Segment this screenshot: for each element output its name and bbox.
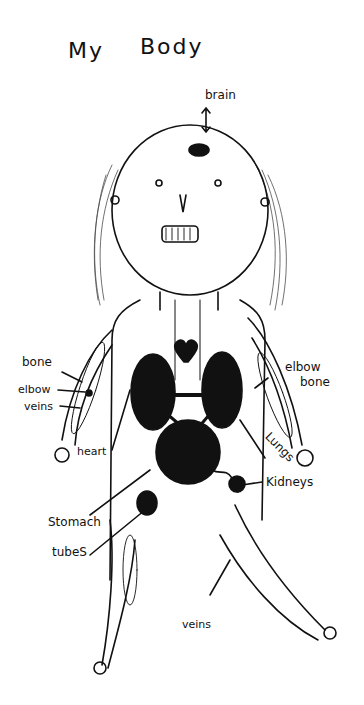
label-stomach: Stomach <box>48 515 101 529</box>
label-elbow-left: elbow <box>18 383 51 396</box>
heart-organ <box>175 340 198 362</box>
kidney-left <box>137 491 157 515</box>
label-elbow-right: elbow <box>285 360 321 374</box>
label-veins-left: veins <box>24 400 53 413</box>
label-heart: heart <box>77 445 106 458</box>
label-veins-leg: veins <box>182 618 211 631</box>
kidney-right <box>229 476 245 492</box>
label-bone-left: bone <box>22 355 52 369</box>
title-body: Body <box>140 34 204 59</box>
body-drawing <box>0 0 364 705</box>
title-my: My <box>68 38 104 63</box>
stomach-organ <box>156 420 220 484</box>
lung-left <box>131 354 175 430</box>
label-bone-right: bone <box>300 375 330 389</box>
brain <box>189 144 209 156</box>
label-tubes: tubeS <box>52 545 87 559</box>
label-kidneys: Kidneys <box>266 475 313 489</box>
label-brain: brain <box>205 88 236 102</box>
